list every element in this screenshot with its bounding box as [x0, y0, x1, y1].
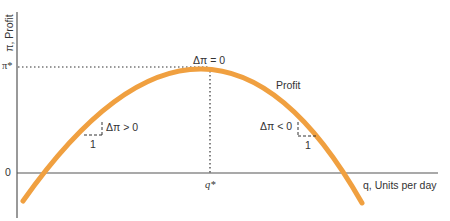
profit-curve [23, 69, 362, 203]
peak-annotation: Δπ = 0 [193, 55, 225, 66]
profit-chart: π, Profit π* 0 q* q, Units per day Δπ = … [0, 0, 450, 221]
right-slope-annotation: Δπ < 0 [260, 121, 292, 132]
pi-star-tick-label: π* [2, 61, 13, 72]
left-run-label: 1 [90, 139, 96, 150]
y-axis-label-wrap: π, Profit [1, 5, 15, 61]
x-axis-label: q, Units per day [363, 180, 437, 191]
right-run-label: 1 [305, 140, 311, 151]
left-slope-annotation: Δπ > 0 [106, 122, 138, 133]
zero-tick-label: 0 [5, 167, 11, 178]
y-axis-label: π, Profit [3, 5, 15, 61]
q-star-tick-label: q* [205, 180, 216, 191]
curve-label: Profit [276, 80, 301, 91]
